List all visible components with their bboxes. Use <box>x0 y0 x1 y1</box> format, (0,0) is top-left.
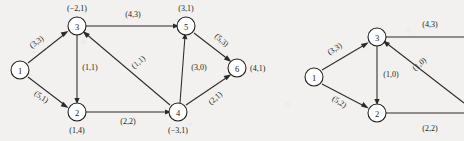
edge-label-1-3: (3,3) <box>28 34 46 50</box>
right-edge-label-3-out: (4,3) <box>422 20 438 29</box>
right-node-2-id: 2 <box>375 109 379 119</box>
node-5-label: (3,1) <box>178 4 194 13</box>
edge-label-3-5: (4,3) <box>125 10 141 19</box>
right-graph-nodes: 1 2 3 <box>305 28 386 122</box>
right-edge-label-2-out: (2,2) <box>422 124 438 133</box>
node-4-label: (−3,1) <box>168 126 188 135</box>
node-2[interactable]: 2 (1,4) <box>68 103 86 135</box>
node-3[interactable]: 3 (−2,1) <box>67 4 87 35</box>
node-1-id: 1 <box>18 66 22 76</box>
right-node-3[interactable]: 3 <box>368 28 386 46</box>
right-graph: (3,3) (5,2) (4,3) (1,0) (1,0) (2,2) 1 2 … <box>305 20 464 133</box>
node-5[interactable]: 5 (3,1) <box>177 4 195 35</box>
node-5-id: 5 <box>184 22 188 32</box>
edge-label-5-6: (5,3) <box>213 32 231 49</box>
edge-4-to-3 <box>85 33 170 105</box>
right-edge-label-3-2: (1,0) <box>383 70 399 79</box>
node-6-label: (4,1) <box>250 64 266 73</box>
left-graph-edge-labels: (3,3) (5,1) (4,3) (1,1) (1,1) (2,2) (3,0… <box>28 10 231 126</box>
edge-label-4-5: (3,0) <box>191 63 207 72</box>
right-edge-label-in-3: (1,0) <box>411 55 429 72</box>
right-node-1-id: 1 <box>312 73 316 83</box>
node-6[interactable]: 6 (4,1) <box>228 59 266 77</box>
right-node-1[interactable]: 1 <box>305 68 323 86</box>
edge-label-4-6: (2,1) <box>207 89 225 106</box>
edge-label-4-3: (1,1) <box>130 53 148 70</box>
edge-label-1-2: (5,1) <box>33 89 51 105</box>
network-flow-diagram: (3,3) (5,1) (4,3) (1,1) (1,1) (2,2) (3,0… <box>0 0 464 141</box>
right-node-3-id: 3 <box>375 33 379 43</box>
edge-label-2-4: (2,2) <box>120 117 136 126</box>
left-graph-nodes: 1 2 (1,4) 3 (−2,1) 4 (−3,1) 5 (3,1) <box>11 4 266 135</box>
node-3-label: (−2,1) <box>67 4 87 13</box>
edge-4-to-5 <box>180 36 185 103</box>
right-node-2[interactable]: 2 <box>368 104 386 122</box>
node-2-label: (1,4) <box>69 126 85 135</box>
right-edge-label-1-3: (3,3) <box>326 41 344 57</box>
right-edge-1-to-3-arrow <box>361 42 369 48</box>
edge-label-3-2: (1,1) <box>82 63 98 72</box>
node-6-id: 6 <box>235 64 239 74</box>
node-1[interactable]: 1 <box>11 61 29 79</box>
node-3-id: 3 <box>75 22 79 32</box>
node-4[interactable]: 4 (−3,1) <box>168 103 188 135</box>
left-graph: (3,3) (5,1) (4,3) (1,1) (1,1) (2,2) (3,0… <box>11 4 266 135</box>
right-edge-1-to-2-arrow <box>361 102 369 109</box>
node-2-id: 2 <box>75 108 79 118</box>
